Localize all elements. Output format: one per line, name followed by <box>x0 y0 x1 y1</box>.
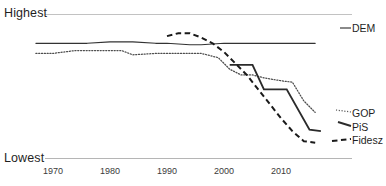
series-line-dem <box>36 42 315 45</box>
series-label-gop: GOP <box>352 108 375 119</box>
leader-line-pis <box>338 122 351 126</box>
political-position-line-chart: Highest Lowest DEM GOP PiS Fidesz 197019… <box>0 0 386 186</box>
chart-plot-area <box>0 0 386 186</box>
axis-label-highest: Highest <box>4 7 47 20</box>
x-tick-1970: 1970 <box>43 167 63 176</box>
x-tick-2010: 2010 <box>271 167 291 176</box>
leader-line-gop <box>336 110 351 112</box>
x-tick-1990: 1990 <box>157 167 177 176</box>
x-tick-1980: 1980 <box>100 167 120 176</box>
leader-line-fidesz <box>332 139 351 141</box>
series-line-fidesz <box>167 33 315 142</box>
series-label-fidesz: Fidesz <box>352 135 383 146</box>
axis-label-lowest: Lowest <box>4 152 44 165</box>
series-line-gop <box>36 51 315 113</box>
x-tick-2000: 2000 <box>214 167 234 176</box>
series-label-pis: PiS <box>352 122 368 133</box>
series-label-dem: DEM <box>352 23 375 34</box>
